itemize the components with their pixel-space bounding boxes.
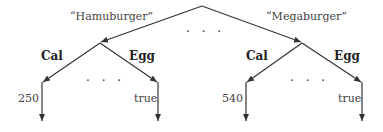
tree-diagram: “Hamuburger” “Megaburger” · · · Cal Egg … <box>0 0 383 132</box>
mega-ellipsis: · · · <box>290 74 329 88</box>
edge-label-megaburger: “Megaburger” <box>266 10 347 23</box>
leaf-value-ham-cal: 250 <box>18 92 39 105</box>
edge-label-mega-cal: Cal <box>246 49 268 63</box>
ham-ellipsis: · · · <box>86 74 125 88</box>
edge-label-mega-egg: Egg <box>334 49 360 63</box>
root-ellipsis: · · · <box>186 25 225 39</box>
leaf-value-ham-egg: true <box>134 92 157 105</box>
edge-label-ham-cal: Cal <box>41 49 63 63</box>
leaf-value-mega-egg: true <box>338 92 361 105</box>
edge-label-hamuburger: “Hamuburger” <box>70 10 153 23</box>
edge-label-ham-egg: Egg <box>129 49 155 63</box>
leaf-value-mega-cal: 540 <box>222 92 243 105</box>
